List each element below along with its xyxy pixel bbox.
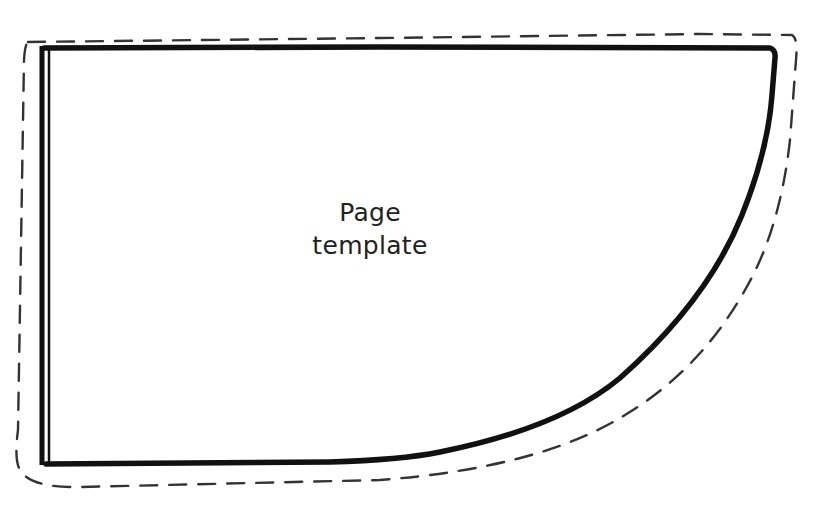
piece-label-line1: Page bbox=[270, 196, 470, 229]
piece-label: Page template bbox=[270, 196, 470, 262]
piece-label-line2: template bbox=[270, 229, 470, 262]
